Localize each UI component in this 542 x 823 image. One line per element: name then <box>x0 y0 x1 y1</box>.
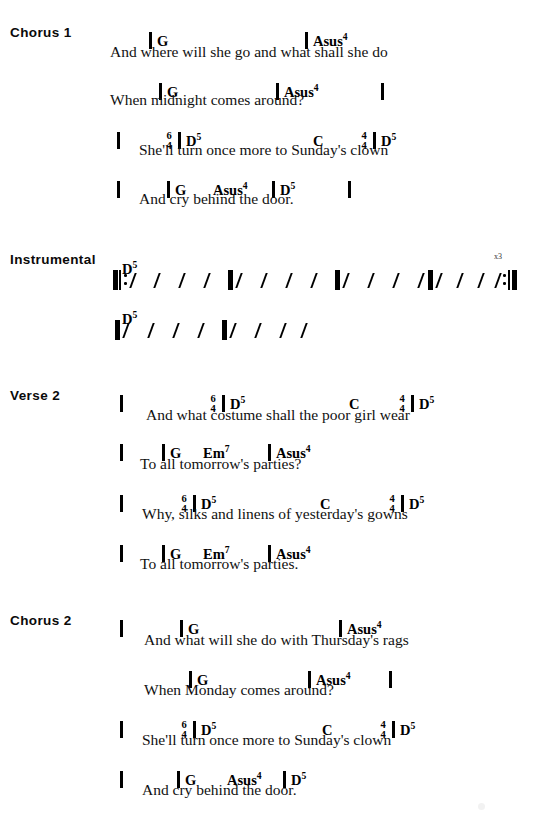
rhythm-slash <box>129 273 137 288</box>
lyric-line: And cry behind the door. <box>139 190 294 208</box>
barline-glyph <box>117 132 120 149</box>
barline-glyph <box>348 181 351 198</box>
barline-glyph <box>120 771 123 788</box>
rhythm-slash <box>197 323 205 338</box>
rhythm-slash <box>300 323 308 338</box>
barline-glyph <box>392 721 395 738</box>
thick-barline <box>115 320 120 340</box>
barline-glyph <box>120 395 123 412</box>
barline-glyph <box>389 671 392 688</box>
rhythm-slash <box>342 273 350 288</box>
rhythm-slash <box>172 323 180 338</box>
lyric-line: And where will she go and what shall she… <box>110 43 388 61</box>
thick-barline <box>228 270 233 290</box>
rhythm-slash <box>435 273 443 288</box>
barline-glyph <box>120 620 123 637</box>
repeat-count-label: x3 <box>494 252 502 261</box>
lyric-line: When midnight comes around? <box>110 91 304 109</box>
lyric-line: And cry behind the door. <box>142 781 297 799</box>
chord-symbol: D5 <box>409 497 424 512</box>
barline-glyph <box>120 495 123 512</box>
chord-extension: 4 <box>377 619 382 630</box>
thick-barline <box>113 270 118 290</box>
chord-extension: 4 <box>314 82 319 93</box>
rhythm-slash <box>494 273 502 288</box>
lyric-line: And what will she do with Thursday's rag… <box>144 631 409 649</box>
chord-symbol: D5 <box>419 397 434 412</box>
barline-glyph <box>120 444 123 461</box>
rhythm-slash <box>203 273 211 288</box>
repeat-dots <box>124 273 127 286</box>
rhythm-staff-row <box>0 316 542 338</box>
rhythm-slash <box>417 273 425 288</box>
rhythm-slash <box>229 323 237 338</box>
chord-root: D <box>419 396 429 412</box>
chord-extension: 7 <box>225 544 230 555</box>
thin-barline <box>119 270 121 290</box>
lyric-line: When Monday comes around? <box>144 681 334 699</box>
repeat-dots <box>503 273 506 286</box>
rhythm-slash <box>254 323 262 338</box>
chord-extension: 5 <box>240 394 245 405</box>
barline-glyph <box>117 181 120 198</box>
thick-barline <box>428 270 433 290</box>
rhythm-slash <box>279 323 287 338</box>
lyric-line: To all tomorrow's parties. <box>140 555 298 573</box>
chord-root: D <box>409 496 419 512</box>
lyric-line: She'll turn once more to Sunday's clown <box>142 731 391 749</box>
chord-root: D <box>400 722 410 738</box>
rhythm-slash <box>178 273 186 288</box>
rhythm-slash <box>367 273 375 288</box>
chord-extension: 4 <box>306 443 311 454</box>
thin-barline <box>508 270 510 290</box>
lyric-line: She'll turn once more to Sunday's clown <box>139 141 388 159</box>
songsheet-page: Chorus 1GAsus4GAsus464D5C44D5GAsus4D5And… <box>0 0 542 823</box>
chord-extension: 5 <box>301 770 306 781</box>
chord-symbol: D5 <box>400 723 415 738</box>
chord-extension: 4 <box>257 770 262 781</box>
chord-extension: 4 <box>306 544 311 555</box>
thick-barline <box>222 320 227 340</box>
rhythm-slash <box>260 273 268 288</box>
lyric-line: And what costume shall the poor girl wea… <box>146 406 410 424</box>
chord-extension: 4 <box>343 31 348 42</box>
rhythm-slash <box>147 323 155 338</box>
chord-extension: 5 <box>391 131 396 142</box>
barline-glyph <box>120 721 123 738</box>
barline-glyph <box>120 545 123 562</box>
rhythm-slash <box>477 273 485 288</box>
rhythm-staff-row <box>0 266 542 288</box>
chord-extension: 7 <box>225 443 230 454</box>
thick-barline <box>335 270 340 290</box>
chord-extension: 4 <box>346 670 351 681</box>
rhythm-slash <box>122 323 130 338</box>
rhythm-slash <box>285 273 293 288</box>
lyric-line: To all tomorrow's parties? <box>140 455 301 473</box>
chord-extension: 5 <box>429 394 434 405</box>
rhythm-slash <box>310 273 318 288</box>
chord-extension: 5 <box>419 494 424 505</box>
chord-extension: 5 <box>211 720 216 731</box>
rhythm-slash <box>235 273 243 288</box>
chord-extension: 5 <box>211 494 216 505</box>
lyric-line: Why, silks and linens of yesterday's gow… <box>142 505 408 523</box>
barline-glyph <box>411 395 414 412</box>
scan-artifact <box>478 803 485 810</box>
rhythm-slash <box>392 273 400 288</box>
rhythm-slash <box>456 273 464 288</box>
barline-glyph <box>381 83 384 100</box>
rhythm-slash <box>153 273 161 288</box>
thick-barline <box>512 270 517 290</box>
chord-extension: 5 <box>410 720 415 731</box>
